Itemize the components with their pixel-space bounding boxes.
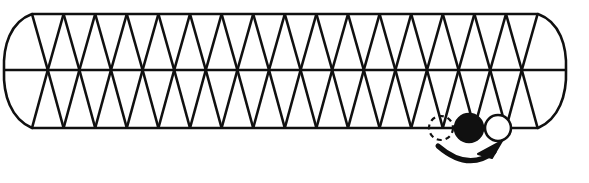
empty-site — [485, 115, 511, 141]
filled-site — [455, 114, 483, 142]
lattice-figure — [0, 0, 589, 183]
lattice-diagram — [0, 0, 589, 183]
